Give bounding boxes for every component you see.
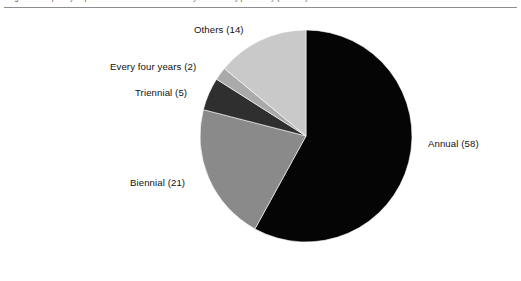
pie-label-every-four-years: Every four years (2): [110, 61, 196, 72]
pie-chart: Others (14) Every four years (2) Trienni…: [0, 0, 521, 281]
figure-page: Figure 1 Frequency of publication of nat…: [0, 0, 521, 281]
pie-slice-group: [200, 30, 412, 242]
pie-label-triennial: Triennial (5): [135, 87, 187, 98]
pie-label-annual: Annual (58): [428, 138, 479, 149]
pie-label-others: Others (14): [194, 24, 244, 35]
pie-label-biennial: Biennial (21): [130, 177, 185, 188]
